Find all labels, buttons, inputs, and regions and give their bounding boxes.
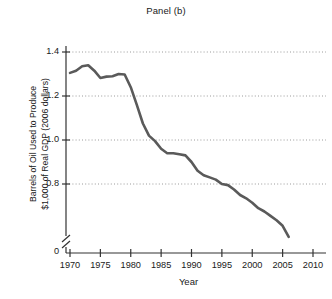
y-tick-label-1.4: 1.4 — [33, 46, 59, 56]
y-tick-label-1.2: 1.2 — [33, 90, 59, 100]
chart-container: Panel (b) Barrels of Oil Used to Produce… — [0, 0, 332, 299]
y-tick-label-zero: 0 — [33, 246, 59, 256]
y-tick-label-0.8: 0.8 — [33, 178, 59, 188]
axis-break-slash-1 — [62, 235, 70, 242]
x-axis-title: Year — [0, 276, 332, 287]
y-axis-title-line-2: $1,000 of Real GDP (2006 dollars) — [40, 44, 52, 244]
data-line-0 — [70, 65, 289, 237]
x-tick-label-2010: 2010 — [293, 260, 332, 270]
chart-title: Panel (b) — [0, 5, 332, 16]
y-axis-title: Barrels of Oil Used to Produce $1,000 of… — [28, 44, 51, 244]
tick-marks — [62, 52, 313, 257]
y-tick-label-1.0: 1.0 — [33, 134, 59, 144]
y-axis-title-line-1: Barrels of Oil Used to Produce — [28, 44, 40, 244]
axis-break-icon — [62, 235, 70, 248]
axis-break-slash-2 — [62, 241, 70, 248]
data-series-group — [70, 65, 289, 237]
gridlines — [66, 52, 326, 184]
